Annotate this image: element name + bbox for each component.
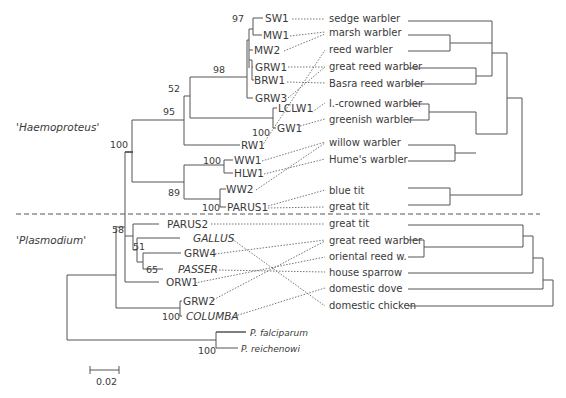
host-willow-warbler: willow warbler [329,137,402,148]
bootstrap-100-pf: 100 [198,345,216,356]
bootstrap-100-parus: 100 [202,202,220,213]
bootstrap-65: 65 [146,264,158,275]
bootstrap-95: 95 [163,106,175,117]
host-blue-tit: blue tit [329,185,364,196]
tip-LCLW1: LCLW1 [278,102,313,114]
tip-MW1: MW1 [263,29,289,41]
tip-WW2: WW2 [226,183,253,195]
bootstrap-100-ww: 100 [203,155,221,166]
tip-HLW1: HLW1 [234,167,264,179]
host-great-reed-warbler: great reed warbler [329,61,423,72]
bootstrap-100-root: 100 [110,139,128,150]
tip-BRW1: BRW1 [254,74,285,86]
bootstrap-97: 97 [232,13,244,24]
host-great-tit: great tit [329,201,369,212]
tip-GRW4: GRW4 [184,247,216,259]
tip-ORW1: ORW1 [166,276,198,288]
tip-p-reichenowi: P. reichenowi [241,344,300,354]
host-reed-warbler: reed warbler [329,44,393,55]
host-domestic-dove: domestic dove [329,283,402,294]
tip-RW1: RW1 [241,139,265,151]
tip-MW2: MW2 [254,44,280,56]
tip-GW1: GW1 [277,122,302,134]
bootstrap-52: 52 [168,83,180,94]
tip-GRW2: GRW2 [183,295,215,307]
bootstrap-51: 51 [133,241,145,252]
tip-GALLUS: GALLUS [193,232,235,244]
host-house-sparrow: house sparrow [329,267,402,278]
tip-PARUS1: PARUS1 [227,201,268,213]
bootstrap-58: 58 [112,224,124,235]
host-marsh-warbler: marsh warbler [329,27,402,38]
phylogeny-tanglegram: 'Haemoproteus' 'Plasmodium' [0,0,566,398]
host-great-tit-2: great tit [329,218,369,229]
bootstrap-100-columba: 100 [162,311,180,322]
group-label-haemoproteus: 'Haemoproteus' [16,121,99,133]
host-greenish-warbler: greenish warbler [329,114,414,125]
tip-GRW1: GRW1 [255,61,287,73]
scale-bar-label: 0.02 [96,376,117,387]
tip-PASSER: PASSER [178,263,218,275]
host-domestic-chicken: domestic chicken [329,300,416,311]
host-oriental-reed-warbler: oriental reed w. [329,251,407,262]
tip-p-falciparum: P. falciparum [250,328,308,338]
host-tree [408,21,553,306]
group-label-plasmodium: 'Plasmodium' [16,234,86,246]
host-humes-warbler: Hume's warbler [329,154,409,165]
host-sedge-warbler: sedge warbler [329,13,401,24]
tip-COLUMBA: COLUMBA [186,310,239,322]
bootstrap-98: 98 [213,64,225,75]
bootstrap-89: 89 [168,187,180,198]
tip-WW1: WW1 [234,154,261,166]
scale-bar: 0.02 [90,366,119,387]
tip-SW1: SW1 [265,12,289,24]
bootstrap-100-gw: 100 [252,127,270,138]
tip-PARUS2: PARUS2 [167,218,208,230]
